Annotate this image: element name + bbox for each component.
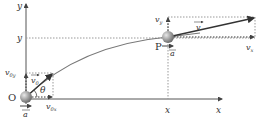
point-p-label: P [155, 41, 162, 52]
velocity-vectors-at-p [168, 18, 254, 37]
origin-label: O [8, 92, 16, 103]
v0-label: v0 [31, 76, 40, 86]
v0x-label: v0x [46, 102, 57, 112]
x-axis-label: x [216, 105, 221, 115]
v-label: v [196, 23, 201, 32]
axes [26, 4, 222, 104]
x-position-label: x [165, 105, 170, 115]
acceleration-label-p: a [170, 49, 175, 58]
acceleration-label-o: a [23, 110, 28, 119]
vy-label: vy [155, 15, 163, 26]
theta-label: θ [40, 85, 46, 95]
angle-arc [34, 90, 37, 97]
y-position-label: y [16, 33, 23, 43]
particle-at-p [162, 31, 174, 43]
vx-label: vx [246, 43, 254, 53]
v0y-label: v0y [5, 68, 16, 79]
y-axis-label: y [16, 1, 23, 11]
trajectory-curve [26, 33, 200, 97]
guide-lines [26, 17, 255, 99]
v-arrow [168, 18, 254, 37]
particle-at-origin [20, 91, 32, 103]
motion-diagram: y x y x O P θ v0y v0 v0x vy v vx a a [0, 0, 262, 119]
